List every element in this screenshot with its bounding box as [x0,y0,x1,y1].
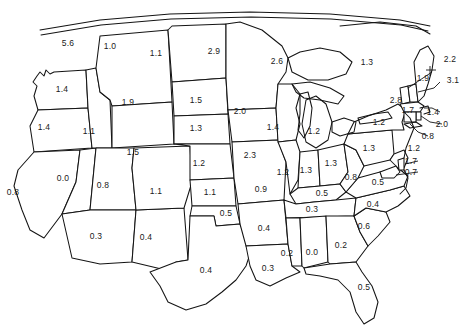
state-value-nc: 0.4 [367,199,379,209]
state-value-mt: 1.9 [122,97,134,107]
state-value-oh: 1.2 [373,117,385,127]
state-value-ca: 0.8 [7,187,19,197]
state-value-sc: 0.6 [358,221,370,231]
state-value-ct: 0.8 [422,131,434,141]
state-value-top-1: 5.6 [62,38,74,48]
state-value-wi-top: 1.3 [361,57,373,67]
state-value-mi: 1.2 [308,126,320,136]
state-value-nm: 0.4 [140,232,152,242]
state-value-az: 0.3 [90,231,102,241]
state-value-co: 1.1 [150,186,162,196]
state-value-ky: 0.5 [316,188,328,198]
state-co [132,146,192,210]
state-value-il: 1.2 [277,167,289,177]
state-value-ok: 0.5 [220,208,232,218]
state-al [300,216,328,268]
state-value-tx: 0.4 [200,265,212,275]
state-wy [112,102,174,148]
state-value-in: 1.3 [300,165,312,175]
state-mi-lower [302,96,332,148]
state-fl [304,262,378,324]
state-value-ny: 2.8 [390,95,402,105]
state-value-fl: 0.5 [358,282,370,292]
state-value-mo: 0.9 [255,184,267,194]
state-value-ut: 0.8 [97,180,109,190]
state-value-ne: 1.2 [193,158,205,168]
state-value-ar: 0.4 [258,223,270,233]
state-ut [90,148,136,210]
state-value-md: 0.7 [405,167,417,177]
state-value-mn: 2.6 [271,56,283,66]
state-value-va: 0.5 [372,177,384,187]
state-value-la: 0.3 [262,263,274,273]
state-de [398,158,404,170]
state-value-me: 1.9 [417,73,429,83]
us-value-map: 5.61.01.12.92.61.32.21.93.11.41.91.52.82… [0,0,467,336]
state-value-sd: 1.3 [190,123,202,133]
state-value-ma: 1.4 [427,107,439,117]
state-value-ks: 1.1 [204,187,216,197]
lake-superior-outline [288,48,352,80]
state-value-oh2: 1.3 [325,158,337,168]
state-value-ne-sm: 1.7 [402,105,414,115]
state-value-nd: 1.5 [190,95,202,105]
state-value-top-4: 2.9 [208,46,220,56]
state-value-wy: 1.5 [127,147,139,157]
state-value-nj: 1.2 [408,143,420,153]
state-value-nh: 3.1 [447,75,459,85]
state-value-top-3: 1.1 [150,48,162,58]
state-value-or: 1.4 [38,122,50,132]
state-value-mn2: 2.0 [234,106,246,116]
state-value-wa: 1.4 [56,84,68,94]
state-value-ia: 2.3 [244,150,256,160]
state-value-id: 1.1 [83,126,95,136]
state-value-wi: 1.4 [267,122,279,132]
state-value-pa: 1.3 [363,143,375,153]
state-value-vt: 2.2 [444,54,456,64]
state-value-nv: 0.0 [57,173,69,183]
state-value-wv: 0.8 [345,172,357,182]
state-value-de: 1.7 [405,156,417,166]
state-value-top-2: 1.0 [104,41,116,51]
state-value-ri: 2.0 [436,119,448,129]
state-ri [416,112,421,120]
state-value-ms: 0.2 [281,248,293,258]
map-outline-svg [0,0,467,336]
state-value-tn: 0.3 [306,204,318,214]
state-value-al: 0.0 [306,247,318,257]
state-value-ga: 0.2 [335,240,347,250]
